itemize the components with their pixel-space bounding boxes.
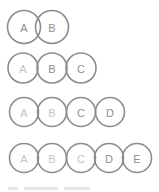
circle-label-c: C [77,63,85,75]
circle-row-1: AB [8,11,69,44]
circle-row-3: ABCD [10,98,125,127]
circle-label-b: B [48,153,55,165]
circle-row-2: ABC [8,53,96,83]
overlapping-circles-diagram: ABABCABCDABCDE [0,0,159,192]
circle-label-e: E [133,153,140,165]
cut-off-caption [8,187,128,192]
circle-label-c: C [77,153,85,165]
circle-label-d: D [105,153,113,165]
circle-label-b: B [48,63,55,75]
circle-label-a: A [20,22,28,34]
circle-label-d: D [106,107,114,119]
circle-label-b: B [48,22,55,34]
circle-label-a: A [19,63,27,75]
circle-label-a: A [20,107,28,119]
circle-label-a: A [20,153,28,165]
circle-row-4: ABCDE [10,144,152,173]
circle-label-b: B [48,107,55,119]
circle-label-c: C [77,107,85,119]
